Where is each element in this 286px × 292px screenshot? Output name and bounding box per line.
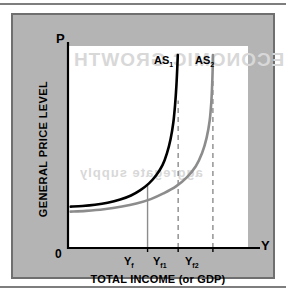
axis-label-y: Y xyxy=(261,238,270,253)
tick-label-yf-sub: f xyxy=(131,262,133,269)
tick-label-yf2-sub: f2 xyxy=(192,262,198,269)
curve-label-as2-base: AS xyxy=(195,54,210,66)
economics-figure: ECONOMIC GROWTH aggregate supply P Y 0 A… xyxy=(0,0,286,292)
y-axis-title: GENERAL PRICE LEVEL xyxy=(37,69,49,229)
page-rule-top xyxy=(0,3,286,5)
chart-svg xyxy=(13,15,286,292)
axis-label-origin: 0 xyxy=(55,247,62,261)
tick-label-yf2: Yf2 xyxy=(185,255,199,269)
curve-as1 xyxy=(71,55,178,207)
curve-label-as1-sub: 1 xyxy=(169,61,173,68)
curve-label-as2-sub: 2 xyxy=(210,61,214,68)
x-axis-title: TOTAL INCOME (or GDP) xyxy=(58,273,258,285)
tick-label-yf: Yf xyxy=(124,255,134,269)
tick-label-yf1-sub: f1 xyxy=(160,262,166,269)
curve-label-as1-base: AS xyxy=(154,54,169,66)
tick-label-yf1: Yf1 xyxy=(153,255,167,269)
axis-label-p: P xyxy=(56,31,65,46)
curve-label-as2: AS2 xyxy=(195,54,214,68)
chart-panel: ECONOMIC GROWTH aggregate supply P Y 0 A… xyxy=(11,13,275,279)
curve-label-as1: AS1 xyxy=(154,54,173,68)
